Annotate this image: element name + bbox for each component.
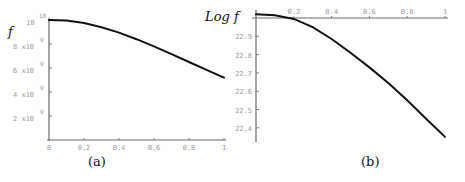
y-tick-label: 8 x10 (13, 43, 34, 51)
panel-a-ylabel: f (7, 24, 15, 39)
y-tick-label: 22.8 (235, 52, 252, 60)
y-tick-exponent: 9 (40, 60, 44, 67)
y-tick-label: 4 x10 (13, 91, 34, 99)
y-tick-exponent: 9 (40, 36, 44, 43)
panel-a: f 2 x1094 x1096 x1098 x1091010 00.20.40.… (7, 12, 226, 169)
x-tick-label: 0.8 (401, 8, 414, 16)
x-tick-label: 0 (47, 144, 51, 152)
panel-b-ylabel: Log f (204, 9, 241, 24)
panel-a-y-ticks: 2 x1094 x1096 x1098 x1091010 (13, 12, 52, 123)
panel-b-x-ticks: 0.20.40.60.81 (287, 8, 447, 18)
y-tick-exponent: 9 (40, 84, 44, 91)
x-tick-label: 1 (222, 144, 226, 152)
y-tick-label: 22.6 (235, 88, 252, 96)
x-tick-label: 0.2 (287, 8, 300, 16)
x-tick-label: 0.4 (113, 144, 126, 152)
y-tick-label: 22.7 (235, 70, 252, 78)
y-tick-exponent: 10 (39, 12, 47, 19)
y-tick-label: 22.9 (235, 33, 252, 41)
panel-a-curve (49, 20, 224, 78)
panel-b: Log f 22.922.822.722.622.522.4 0.20.40.6… (204, 8, 448, 169)
y-tick-label: 22.4 (235, 125, 252, 133)
panel-b-label: (b) (361, 154, 379, 169)
x-tick-label: 1 (443, 8, 447, 16)
x-tick-label: 0.6 (363, 8, 376, 16)
x-tick-label: 0.8 (183, 144, 196, 152)
y-tick-label: 10 (26, 19, 34, 27)
y-tick-label: 2 x10 (13, 115, 34, 123)
x-tick-label: 0.4 (325, 8, 338, 16)
figure: f 2 x1094 x1096 x1098 x1091010 00.20.40.… (0, 0, 465, 182)
y-tick-label: 6 x10 (13, 67, 34, 75)
x-tick-label: 0.6 (148, 144, 161, 152)
y-tick-exponent: 9 (40, 108, 44, 115)
panel-a-label: (a) (88, 154, 106, 169)
panel-b-curve (256, 14, 445, 137)
x-tick-label: 0.2 (78, 144, 91, 152)
y-tick-label: 22.5 (235, 107, 252, 115)
